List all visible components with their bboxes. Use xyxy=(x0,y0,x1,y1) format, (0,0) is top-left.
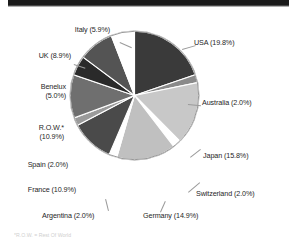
slice-label-germany: Germany (14.9%) xyxy=(143,212,229,221)
slice-label-row-value: (10.9%) xyxy=(6,133,64,142)
slice-label-spain: Spain (2.0%) xyxy=(2,161,68,170)
slice-label-uk: UK (8.9%) xyxy=(13,52,71,61)
leader-line-argentina xyxy=(105,199,109,211)
slice-label-row: R.O.W.* (10.9%) xyxy=(6,124,64,141)
slice-label-italy: Italy (5.9%) xyxy=(46,26,110,35)
pie-graphic xyxy=(69,30,200,161)
slice-label-benelux: Benelux (5.0%) xyxy=(8,83,66,100)
slice-label-usa: USA (19.8%) xyxy=(194,39,280,48)
slice-label-switzerland: Switzerland (2.0%) xyxy=(196,190,294,199)
footnote-text: *R.O.W. = Rest Of World xyxy=(14,232,164,238)
pie-slices xyxy=(70,31,198,159)
slice-label-japan: Japan (15.8%) xyxy=(203,152,293,161)
slice-label-australia: Australia (2.0%) xyxy=(202,99,294,108)
pie-svg xyxy=(69,30,200,161)
slice-label-benelux-value: (5.0%) xyxy=(8,92,66,101)
pie-chart: Italy (5.9%) UK (8.9%) Benelux (5.0%) R.… xyxy=(0,6,298,232)
slice-label-argentina: Argentina (2.0%) xyxy=(42,212,128,221)
slice-label-france: France (10.9%) xyxy=(0,186,76,195)
